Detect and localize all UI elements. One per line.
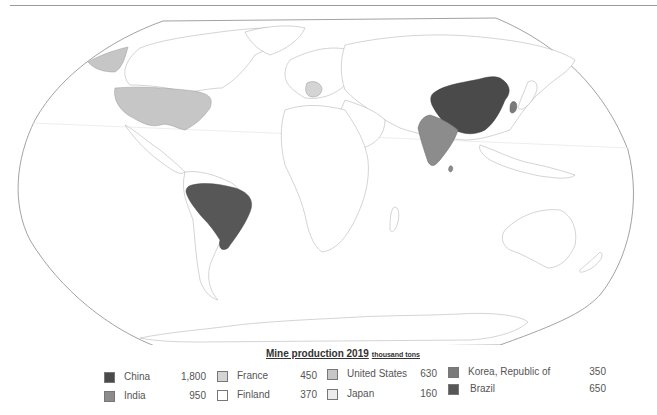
legend-item-japan: Japan 160 <box>327 388 447 402</box>
region-sri-lanka <box>449 166 453 172</box>
swatch-india <box>104 391 115 402</box>
swatch-brazil <box>448 384 459 395</box>
world-map <box>0 0 657 345</box>
legend-item-china: China 1,800 <box>104 371 214 385</box>
legend-value: 450 <box>277 370 317 381</box>
legend-name: Korea, Republic of <box>468 366 550 377</box>
swatch-france <box>217 371 228 382</box>
legend-item-india: India 950 <box>104 390 214 404</box>
legend-value: 370 <box>277 389 317 400</box>
swatch-china <box>104 372 115 383</box>
swatch-japan <box>327 389 338 400</box>
legend-value: 160 <box>397 388 437 399</box>
legend-title: Mine production 2019thousand tons <box>266 348 420 359</box>
legend-item-korea: Korea, Republic of 350 <box>448 366 618 380</box>
legend-item-france: France 450 <box>217 370 327 384</box>
legend-item-united-states: United States 630 <box>327 368 447 382</box>
legend-name: Japan <box>347 388 374 399</box>
legend-value: 350 <box>566 366 606 377</box>
swatch-united-states <box>327 369 338 380</box>
legend-name: Finland <box>237 389 270 400</box>
region-france <box>306 82 322 97</box>
legend-name: China <box>124 371 150 382</box>
legend-value: 950 <box>166 390 206 401</box>
legend-title-text: Mine production 2019 <box>266 348 369 359</box>
legend-value: 630 <box>397 368 437 379</box>
legend-name: Brazil <box>470 383 495 394</box>
legend-item-brazil: Brazil 650 <box>448 383 618 397</box>
legend-value: 650 <box>566 383 606 394</box>
swatch-finland <box>217 390 228 401</box>
legend-value: 1,800 <box>166 371 206 382</box>
legend-name: India <box>124 390 146 401</box>
legend-unit: thousand tons <box>372 351 420 358</box>
legend-name: France <box>237 370 268 381</box>
legend-item-finland: Finland 370 <box>217 389 327 403</box>
swatch-korea <box>448 367 459 378</box>
